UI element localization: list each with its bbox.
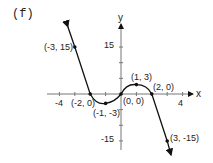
point-marker (88, 92, 92, 96)
graph: x y -4 4 15 -15 (-3, 15) (-2, 0) (-1, -3… (0, 0, 213, 163)
x-tick-label-neg4: -4 (55, 98, 63, 108)
point-label: (-2, 0) (71, 98, 95, 108)
point-label: (-3, 15) (44, 42, 73, 52)
y-tick-label-15: 15 (104, 40, 114, 50)
point-label: (3, -15) (170, 133, 199, 143)
point-label: (2, 0) (153, 82, 174, 92)
point-label: (1, 3) (131, 72, 152, 82)
point-marker (165, 139, 169, 143)
point-marker (150, 92, 154, 96)
point-marker (104, 102, 108, 106)
y-tick-label-neg15: -15 (101, 134, 114, 144)
x-axis-label: x (196, 88, 201, 99)
point-marker (135, 83, 139, 87)
y-axis-label: y (118, 12, 123, 23)
x-tick-label-4: 4 (178, 98, 183, 108)
point-label: (0, 0) (123, 96, 144, 106)
point-marker (73, 45, 77, 49)
point-label: (-1, -3) (93, 108, 120, 118)
